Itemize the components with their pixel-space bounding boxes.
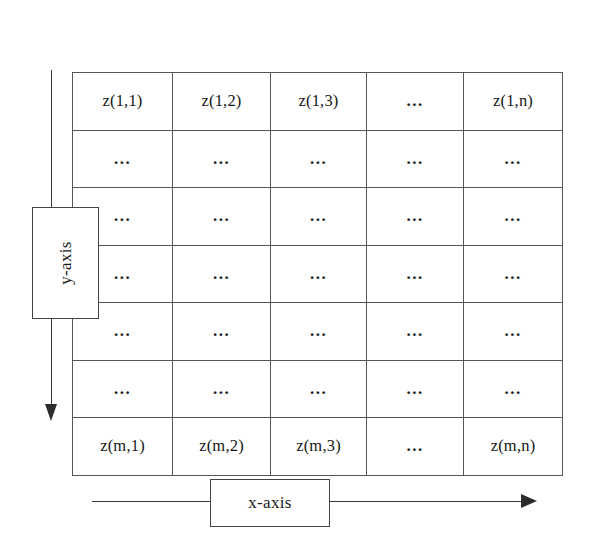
grid-cell: z(m,2)	[173, 418, 271, 476]
grid-cell: z(m,n)	[464, 418, 563, 476]
grid-cell-ellipsis: ...	[173, 303, 271, 361]
grid-cell-ellipsis: ...	[271, 188, 367, 246]
matrix-grid: z(1,1) z(1,2) z(1,3) ... z(1,n) ... ... …	[72, 72, 563, 476]
arrow-right-icon	[521, 494, 537, 508]
grid-cell-ellipsis: ...	[271, 245, 367, 303]
grid-cell-ellipsis: ...	[464, 303, 563, 361]
grid-cell-ellipsis: ...	[173, 245, 271, 303]
grid-cell-ellipsis: ...	[464, 360, 563, 418]
grid-cell-ellipsis: ...	[271, 130, 367, 188]
x-axis-line-left	[92, 501, 212, 502]
table-row: z(m,1) z(m,2) z(m,3) ... z(m,n)	[73, 418, 563, 476]
table-row: ... ... ... ... ...	[73, 303, 563, 361]
table-row: ... ... ... ... ...	[73, 188, 563, 246]
grid-cell-ellipsis: ...	[367, 130, 464, 188]
grid-cell: z(1,n)	[464, 73, 563, 131]
grid-cell-ellipsis: ...	[464, 245, 563, 303]
grid-cell-ellipsis: ...	[271, 303, 367, 361]
grid-cell-ellipsis: ...	[173, 188, 271, 246]
table-row: ... ... ... ... ...	[73, 130, 563, 188]
table-row: ... ... ... ... ...	[73, 360, 563, 418]
grid-cell-ellipsis: ...	[464, 130, 563, 188]
table-row: z(1,1) z(1,2) z(1,3) ... z(1,n)	[73, 73, 563, 131]
grid-cell-ellipsis: ...	[73, 360, 173, 418]
grid-cell-ellipsis: ...	[173, 130, 271, 188]
figure-canvas: z(1,1) z(1,2) z(1,3) ... z(1,n) ... ... …	[0, 0, 593, 559]
x-axis-label-box: x-axis	[210, 479, 330, 527]
grid-cell-ellipsis: ...	[271, 360, 367, 418]
grid-cell-ellipsis: ...	[367, 188, 464, 246]
grid-cell: z(m,1)	[73, 418, 173, 476]
grid-cell-ellipsis: ...	[367, 73, 464, 131]
arrow-down-icon	[45, 404, 57, 421]
x-axis-line-right	[328, 501, 524, 502]
y-axis-label-box: y-axis	[32, 207, 99, 319]
grid-cell: z(m,3)	[271, 418, 367, 476]
grid-cell-ellipsis: ...	[367, 418, 464, 476]
grid-cell: z(1,1)	[73, 73, 173, 131]
grid-cell-ellipsis: ...	[173, 360, 271, 418]
grid-cell-ellipsis: ...	[367, 360, 464, 418]
grid-cell: z(1,3)	[271, 73, 367, 131]
table-row: ... ... ... ... ...	[73, 245, 563, 303]
grid-cell-ellipsis: ...	[73, 130, 173, 188]
grid-cell-ellipsis: ...	[367, 303, 464, 361]
grid-cell: z(1,2)	[173, 73, 271, 131]
y-axis-label: y-axis	[55, 241, 75, 284]
grid-cell-ellipsis: ...	[464, 188, 563, 246]
grid-cell-ellipsis: ...	[367, 245, 464, 303]
x-axis-label: x-axis	[248, 493, 291, 513]
